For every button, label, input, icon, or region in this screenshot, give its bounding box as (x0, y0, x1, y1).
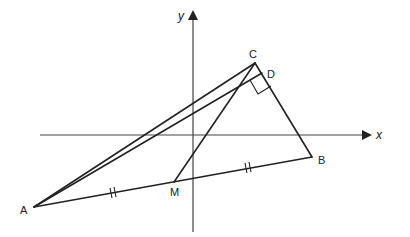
label-c: C (249, 48, 257, 60)
label-a: A (20, 204, 28, 216)
geometry-diagram: x y A B C D M (0, 0, 410, 237)
label-b: B (318, 154, 325, 166)
label-d: D (267, 68, 275, 80)
segment-cb (255, 63, 312, 157)
x-axis-label: x (375, 128, 383, 142)
equal-marks-mb (245, 162, 251, 173)
segment-mc (174, 63, 255, 182)
label-m: M (170, 186, 179, 198)
y-axis-label: y (177, 9, 185, 23)
right-angle-marker (250, 80, 271, 94)
